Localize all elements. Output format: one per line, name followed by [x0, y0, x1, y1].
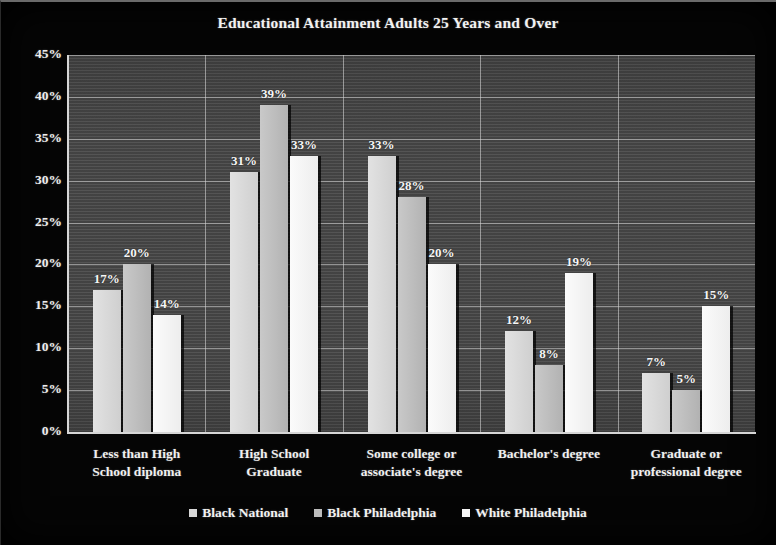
legend-item-0: Black National — [189, 505, 288, 521]
bar-1-1 — [260, 105, 288, 432]
bar-value-label: 39% — [252, 86, 296, 102]
chart-container: Educational Attainment Adults 25 Years a… — [0, 0, 776, 545]
bar-value-label: 14% — [145, 296, 189, 312]
category-label-line: Graduate or — [612, 445, 761, 463]
x-axis-category-label: Bachelor's degree — [474, 445, 623, 463]
legend-item-2: White Philadelphia — [462, 505, 586, 521]
legend-item-1: Black Philadelphia — [314, 505, 436, 521]
y-axis-tick-label: 20% — [6, 255, 62, 271]
bar-0-1 — [230, 172, 258, 432]
bar-value-label: 19% — [557, 254, 601, 270]
category-label-line: Graduate — [199, 463, 348, 481]
x-axis-category-label: Less than HighSchool diploma — [62, 445, 211, 481]
bar-value-label: 20% — [115, 245, 159, 261]
category-label-line: Some college or — [337, 445, 486, 463]
bar-2-3 — [565, 273, 593, 432]
x-axis-category-label: Graduate orprofessional degree — [612, 445, 761, 481]
category-label-line: Less than High — [62, 445, 211, 463]
x-axis-line — [67, 432, 756, 434]
chart-title: Educational Attainment Adults 25 Years a… — [0, 14, 776, 32]
legend-label: Black National — [202, 505, 288, 521]
gridline-horizontal — [68, 139, 755, 140]
x-axis-category-label: Some college orassociate's degree — [337, 445, 486, 481]
y-axis-tick-label: 30% — [6, 172, 62, 188]
bar-2-1 — [290, 156, 318, 432]
bar-2-0 — [153, 315, 181, 432]
category-label-line: High School — [199, 445, 348, 463]
y-axis-tick-label: 5% — [6, 381, 62, 397]
y-axis-tick-label: 0% — [6, 423, 62, 439]
bar-value-label: 15% — [694, 287, 738, 303]
bar-value-label: 7% — [634, 354, 678, 370]
bar-value-label: 33% — [282, 137, 326, 153]
y-axis-tick-label: 10% — [6, 339, 62, 355]
bar-0-0 — [93, 290, 121, 432]
gridline-vertical — [480, 55, 481, 432]
legend-swatch-icon — [189, 509, 197, 517]
bar-1-2 — [398, 197, 426, 432]
category-label-line: professional degree — [612, 463, 761, 481]
y-axis: 0%5%10%15%20%25%30%35%40%45% — [0, 0, 62, 545]
bar-0-2 — [368, 156, 396, 432]
x-axis-category-label: High SchoolGraduate — [199, 445, 348, 481]
y-axis-tick-label: 35% — [6, 130, 62, 146]
bar-2-4 — [702, 306, 730, 432]
chart-legend: Black NationalBlack PhiladelphiaWhite Ph… — [0, 505, 776, 521]
bar-value-label: 12% — [497, 312, 541, 328]
category-label-line: School diploma — [62, 463, 211, 481]
y-axis-tick-label: 15% — [6, 297, 62, 313]
bar-value-label: 33% — [360, 137, 404, 153]
y-axis-tick-label: 25% — [6, 214, 62, 230]
gridline-vertical — [205, 55, 206, 432]
category-label-line: associate's degree — [337, 463, 486, 481]
bar-1-3 — [535, 365, 563, 432]
y-axis-tick-label: 45% — [6, 46, 62, 62]
legend-label: Black Philadelphia — [327, 505, 436, 521]
gridline-vertical — [343, 55, 344, 432]
bar-value-label: 28% — [390, 178, 434, 194]
gridline-horizontal — [68, 55, 755, 56]
legend-swatch-icon — [462, 509, 470, 517]
legend-swatch-icon — [314, 509, 322, 517]
gridline-vertical — [618, 55, 619, 432]
bar-1-4 — [672, 390, 700, 432]
y-axis-line — [67, 55, 69, 433]
legend-label: White Philadelphia — [475, 505, 586, 521]
category-label-line: Bachelor's degree — [474, 445, 623, 463]
bar-value-label: 20% — [420, 245, 464, 261]
gridline-horizontal — [68, 97, 755, 98]
bar-1-0 — [123, 264, 151, 432]
plot-area: 17%20%14%31%39%33%33%28%20%12%8%19%7%5%1… — [68, 55, 755, 432]
bar-2-2 — [428, 264, 456, 432]
y-axis-tick-label: 40% — [6, 88, 62, 104]
